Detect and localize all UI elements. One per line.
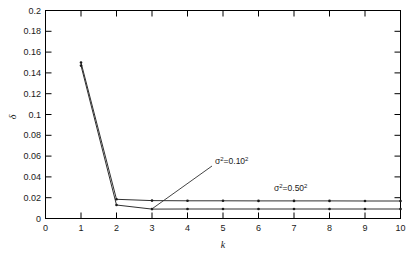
y-tick-label: 0: [36, 214, 41, 224]
annotation-sigma-050-sup2: 2: [304, 183, 308, 189]
annotation-sigma-050-mid: =0.50: [283, 183, 305, 193]
y-tick-label: 0.14: [23, 68, 41, 78]
y-tick-label: 0.2: [28, 6, 41, 16]
y-tick-label: 0.04: [23, 172, 41, 182]
x-tick-label: 8: [327, 223, 332, 233]
y-tick-label: 0.08: [23, 130, 41, 140]
y-axis-ticks-right: [395, 11, 401, 219]
y-tick-label: 0.16: [23, 47, 41, 57]
line-chart: 0 0.02 0.04 0.06 0.08 0.1 0.12 0.14 0.16…: [0, 0, 420, 254]
x-tick-label: 0: [43, 223, 48, 233]
x-tick-label: 7: [291, 223, 296, 233]
annotation-leader-line: [153, 166, 213, 209]
y-tick-label: 0.18: [23, 26, 41, 36]
y-tick-label: 0.12: [23, 89, 41, 99]
figure-container: 0 0.02 0.04 0.06 0.08 0.1 0.12 0.14 0.16…: [0, 0, 420, 254]
annotation-sigma-010: σ2=0.102: [215, 156, 249, 166]
x-tick-label: 1: [78, 223, 83, 233]
annotation-sigma-010-mid: =0.10: [224, 156, 246, 166]
x-tick-label: 4: [185, 223, 190, 233]
x-tick-label: 3: [149, 223, 154, 233]
series-markers-sigma-050: [80, 61, 402, 202]
x-tick-label: 6: [256, 223, 261, 233]
x-tick-label: 10: [395, 223, 405, 233]
y-axis-ticks: [46, 11, 52, 219]
series-line-sigma-050: [81, 63, 401, 202]
x-tick-label: 5: [220, 223, 225, 233]
annotation-sigma-010-sup2: 2: [245, 156, 249, 162]
y-tick-label: 0.02: [23, 193, 41, 203]
y-tick-label: 0.1: [28, 110, 41, 120]
series-line-sigma-010: [81, 66, 401, 210]
plot-frame: [46, 11, 401, 219]
x-tick-labels: 0 1 2 3 4 5 6 7 8 9 10: [43, 223, 406, 233]
series-markers-sigma-010: [80, 64, 402, 210]
y-tick-labels: 0 0.02 0.04 0.06 0.08 0.1 0.12 0.14 0.16…: [23, 6, 41, 224]
y-axis-title: δ: [7, 114, 18, 119]
x-tick-label: 9: [362, 223, 367, 233]
annotation-sigma-050: σ2=0.502: [274, 183, 308, 193]
x-axis-ticks: [46, 213, 401, 219]
x-axis-ticks-top: [46, 11, 401, 17]
x-axis-title: k: [221, 239, 226, 250]
y-tick-label: 0.06: [23, 151, 41, 161]
x-tick-label: 2: [114, 223, 119, 233]
